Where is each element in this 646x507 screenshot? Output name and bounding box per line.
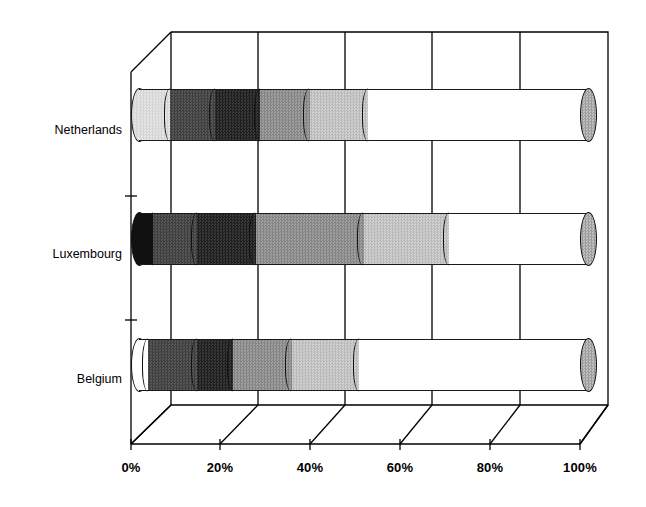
segment-belgium-2[interactable] <box>148 339 197 391</box>
floor-line-40 <box>310 405 345 444</box>
bar-right-cap-netherlands <box>580 88 597 143</box>
floor-line-60 <box>400 405 432 444</box>
segment-luxembourg-2[interactable] <box>153 213 198 265</box>
bar-body-luxembourg <box>139 213 588 265</box>
xtick-label-0: 0% <box>121 460 140 475</box>
xtick-label-100: 100% <box>563 460 597 475</box>
segment-luxembourg-3[interactable] <box>197 213 255 265</box>
segment-netherlands-2[interactable] <box>170 89 215 141</box>
segment-netherlands-1[interactable] <box>139 89 170 141</box>
ylabel-wrap-luxembourg: Luxembourg <box>0 248 122 262</box>
ylabel-wrap-netherlands: Netherlands <box>0 124 122 138</box>
bar-body-belgium <box>139 339 588 391</box>
floor-line-20 <box>220 405 258 444</box>
segment-netherlands-4[interactable] <box>260 89 309 141</box>
ylabel-wrap-belgium: Belgium <box>0 373 122 387</box>
segment-belgium-4[interactable] <box>233 339 291 391</box>
depth-edge-top <box>131 32 171 72</box>
segment-belgium-1[interactable] <box>139 339 148 391</box>
segment-belgium-6[interactable] <box>359 339 588 391</box>
ylabel-netherlands: Netherlands <box>55 124 122 137</box>
bar-netherlands[interactable] <box>139 89 588 141</box>
segment-luxembourg-5[interactable] <box>364 213 449 265</box>
xtick-label-60: 60% <box>387 460 414 475</box>
bar-belgium[interactable] <box>139 339 588 391</box>
segment-netherlands-5[interactable] <box>310 89 368 141</box>
segment-luxembourg-1[interactable] <box>139 213 153 265</box>
ylabel-belgium: Belgium <box>77 373 122 386</box>
floor-line-100 <box>580 405 608 444</box>
segment-belgium-3[interactable] <box>197 339 233 391</box>
segment-luxembourg-6[interactable] <box>449 213 588 265</box>
bar-right-cap-belgium <box>580 338 597 393</box>
floor-line-0 <box>131 405 171 444</box>
xtick-label-80: 80% <box>477 460 504 475</box>
segment-netherlands-3[interactable] <box>215 89 260 141</box>
floor-line-80 <box>490 405 520 444</box>
xtick-label-20: 20% <box>207 460 234 475</box>
bar-right-cap-luxembourg <box>580 212 597 267</box>
bar-body-netherlands <box>139 89 588 141</box>
bar-luxembourg[interactable] <box>139 213 588 265</box>
segment-luxembourg-4[interactable] <box>256 213 364 265</box>
segment-netherlands-6[interactable] <box>368 89 588 141</box>
segment-belgium-5[interactable] <box>292 339 359 391</box>
ylabel-luxembourg: Luxembourg <box>53 248 123 261</box>
xtick-label-40: 40% <box>297 460 324 475</box>
chart-root: Netherlands Luxembourg Belgium 0% 20% 40… <box>0 0 646 507</box>
